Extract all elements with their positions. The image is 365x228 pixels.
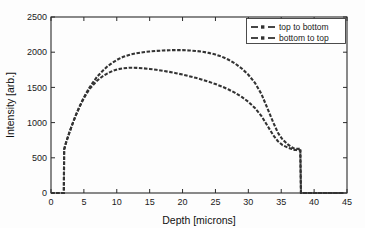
x-tick-label: 20 [178, 197, 188, 207]
y-axis-title: Intensity [arb.] [4, 72, 16, 138]
y-tick-label: 0 [42, 188, 47, 198]
x-tick-label: 45 [342, 197, 352, 207]
y-tick-label: 2500 [27, 12, 47, 22]
chart-figure: 05001000150020002500 051015202530354045 … [0, 0, 365, 228]
x-tick-label: 10 [112, 197, 122, 207]
y-tick-label: 500 [32, 153, 47, 163]
x-tick-label: 30 [243, 197, 253, 207]
chart-svg: 05001000150020002500 051015202530354045 … [0, 0, 365, 228]
x-axis-title: Depth [microns] [162, 214, 236, 226]
x-tick-label: 25 [210, 197, 220, 207]
x-tick-label: 0 [48, 197, 53, 207]
y-tick-label: 2000 [27, 47, 47, 57]
legend-marker-0 [261, 25, 264, 28]
legend-label-0: top to bottom [279, 22, 329, 32]
x-tick-label: 15 [145, 197, 155, 207]
legend-marker-1 [261, 36, 264, 39]
y-tick-label: 1000 [27, 118, 47, 128]
x-tick-label: 35 [276, 197, 286, 207]
x-tick-label: 40 [309, 197, 319, 207]
chart-legend: top to bottombottom to top [247, 19, 346, 44]
y-tick-label: 1500 [27, 83, 47, 93]
x-tick-label: 5 [81, 197, 86, 207]
legend-label-1: bottom to top [279, 33, 329, 43]
